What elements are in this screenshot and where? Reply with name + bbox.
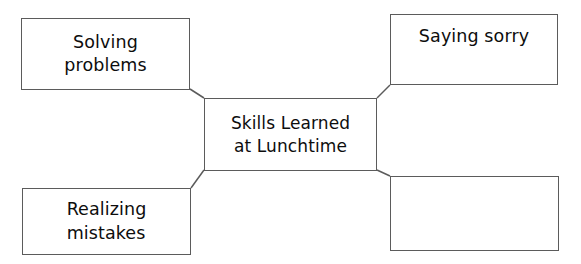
branch-box-top-left[interactable]: Solving problems (21, 18, 190, 90)
branch-label-top-left: Solving problems (64, 31, 146, 78)
connector-center-to-top-left (190, 89, 204, 98)
connector-center-to-top-right (377, 85, 390, 98)
branch-box-bottom-left[interactable]: Realizing mistakes (22, 188, 191, 255)
diagram-canvas: Solving problems Saying sorry Skills Lea… (0, 0, 581, 264)
branch-label-bottom-left: Realizing mistakes (67, 198, 147, 245)
center-topic-label: Skills Learned at Lunchtime (231, 112, 350, 158)
branch-box-bottom-right-blank[interactable] (390, 176, 559, 251)
branch-label-top-right: Saying sorry (419, 25, 529, 48)
connector-center-to-bottom-left (191, 170, 204, 188)
branch-box-top-right[interactable]: Saying sorry (390, 14, 558, 85)
connector-center-to-bottom-right (377, 170, 390, 176)
center-topic-box[interactable]: Skills Learned at Lunchtime (204, 98, 377, 171)
